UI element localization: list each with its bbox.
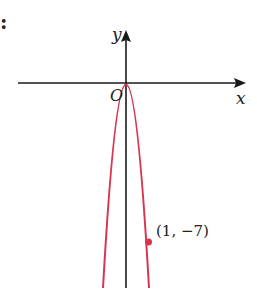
x-axis-label: x bbox=[236, 88, 246, 108]
y-axis-label: y bbox=[112, 24, 122, 44]
graph bbox=[0, 0, 257, 299]
point-marker bbox=[145, 239, 152, 246]
origin-label: O bbox=[110, 86, 123, 105]
point-label: (1, −7) bbox=[156, 222, 209, 240]
